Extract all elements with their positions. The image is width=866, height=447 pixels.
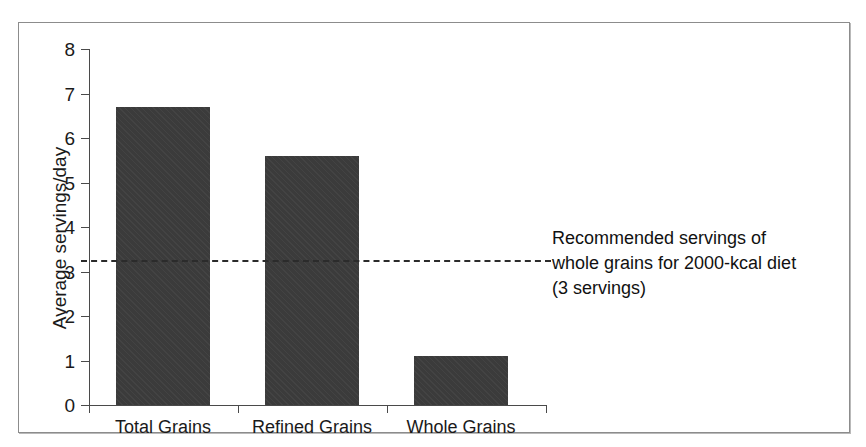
y-tick-label-8: 8 [35, 40, 75, 59]
chart-panel: Average servings/day 8 7 6 5 4 [18, 22, 850, 433]
y-tick-mark-8 [81, 49, 89, 50]
y-tick-mark-6 [81, 138, 89, 139]
y-tick-label-2: 2 [35, 307, 75, 326]
y-tick-5: 5 [19, 183, 75, 184]
annotation-line-2: whole grains for 2000-kcal diet [552, 251, 842, 276]
x-tick-mark-3 [546, 405, 547, 413]
y-tick-label-6: 6 [35, 129, 75, 148]
y-tick-2: 2 [19, 316, 75, 317]
annotation-recommended-servings: Recommended servings of whole grains for… [552, 226, 842, 301]
y-tick-mark-2 [81, 316, 89, 317]
plot-area: Average servings/day 8 7 6 5 4 [19, 23, 851, 434]
y-tick-mark-1 [81, 361, 89, 362]
bar-whole-grains [414, 356, 508, 405]
y-tick-label-4: 4 [35, 218, 75, 237]
x-axis-line [89, 405, 546, 406]
annotation-line-3: (3 servings) [552, 276, 842, 301]
y-tick-7: 7 [19, 94, 75, 95]
y-tick-4: 4 [19, 227, 75, 228]
y-tick-label-5: 5 [35, 174, 75, 193]
y-tick-mark-5 [81, 183, 89, 184]
y-tick-mark-7 [81, 94, 89, 95]
x-tick-mark-1 [238, 405, 239, 413]
y-tick-label-7: 7 [35, 85, 75, 104]
y-tick-1: 1 [19, 361, 75, 362]
reference-line-3-servings [81, 260, 551, 262]
y-tick-mark-0 [81, 405, 89, 406]
y-tick-6: 6 [19, 138, 75, 139]
y-tick-mark-3 [81, 272, 89, 273]
figure-root: Average servings/day 8 7 6 5 4 [0, 0, 866, 447]
y-tick-8: 8 [19, 49, 75, 50]
x-axis-label-total-grains: Total Grains [115, 417, 211, 438]
bar-total-grains [116, 107, 210, 405]
y-tick-label-3: 3 [35, 263, 75, 282]
bar-refined-grains [265, 156, 359, 405]
y-tick-0: 0 [19, 405, 75, 406]
y-tick-label-0: 0 [35, 396, 75, 415]
x-axis-label-refined-grains: Refined Grains [252, 417, 372, 438]
annotation-line-1: Recommended servings of [552, 226, 842, 251]
x-axis-label-whole-grains: Whole Grains [406, 417, 515, 438]
y-tick-label-1: 1 [35, 352, 75, 371]
y-axis-line [89, 49, 90, 405]
y-tick-mark-4 [81, 227, 89, 228]
x-tick-mark-2 [387, 405, 388, 413]
y-tick-3: 3 [19, 272, 75, 273]
x-tick-mark-0 [89, 405, 90, 413]
